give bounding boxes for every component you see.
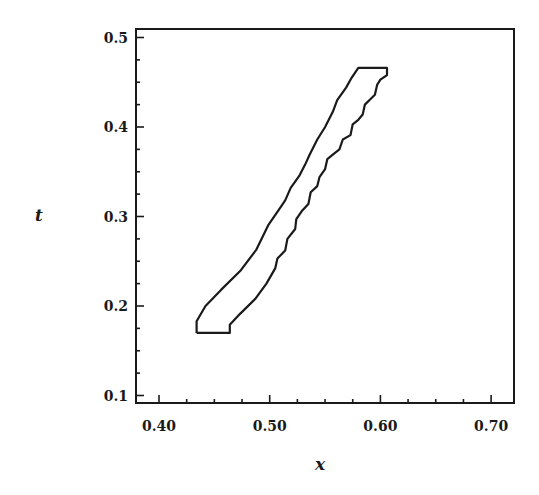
x-tick-label: 0.50 (253, 418, 287, 434)
y-tick-label: 0.5 (104, 30, 128, 46)
plot-frame (136, 29, 514, 403)
chart: 0.400.500.600.70 0.10.20.30.40.5 x t (0, 0, 539, 495)
y-tick-label: 0.2 (104, 298, 128, 314)
x-axis-tick-labels: 0.400.500.600.70 (142, 418, 508, 434)
x-tick-label: 0.70 (474, 418, 508, 434)
y-axis-title: t (35, 205, 43, 225)
y-tick-label: 0.3 (104, 209, 128, 225)
x-axis-ticks (159, 395, 491, 403)
y-axis-ticks (136, 38, 144, 396)
contour-curve (197, 68, 387, 333)
y-tick-label: 0.4 (104, 119, 129, 135)
y-tick-label: 0.1 (104, 388, 128, 404)
x-axis-title: x (314, 454, 326, 474)
x-tick-label: 0.60 (363, 418, 397, 434)
y-axis-tick-labels: 0.10.20.30.40.5 (104, 30, 129, 404)
x-tick-label: 0.40 (142, 418, 176, 434)
